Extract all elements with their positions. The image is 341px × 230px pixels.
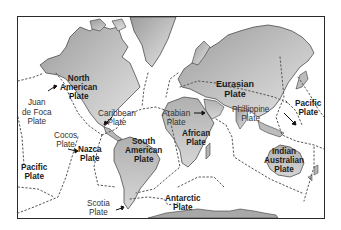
label-phillippine-plate: Phillippine Plate <box>232 105 269 123</box>
label-indian-australian-plate: Indian Australian Plate <box>264 147 304 174</box>
label-north-american-plate: North American Plate <box>60 74 97 101</box>
label-line: Pacific <box>295 99 321 108</box>
label-line: Plate <box>60 92 97 101</box>
label-line: Plate <box>22 117 52 127</box>
label-line: Plate <box>87 208 110 217</box>
label-line: Plate <box>21 172 47 181</box>
japan-landmass <box>296 71 308 89</box>
label-line: Caribbean <box>98 109 136 118</box>
label-scotia-plate: Scotia Plate <box>87 199 110 217</box>
label-line: American <box>125 146 162 155</box>
label-pacific-plate-west: Pacific Plate <box>21 163 47 181</box>
label-cocos-plate: Cocos Plate <box>54 131 77 149</box>
label-line: Antarctic <box>165 194 201 203</box>
label-line: Plate <box>182 138 210 147</box>
label-line: American <box>60 83 97 92</box>
label-african-plate: African Plate <box>182 129 210 147</box>
label-line: Plate <box>54 140 77 149</box>
greenland-landmass <box>130 17 176 67</box>
new-zealand-landmass <box>308 165 318 181</box>
world-plate-map: North American Plate Eurasian Plate Juan… <box>17 16 325 219</box>
label-pacific-plate-east: Pacific Plate <box>295 99 321 117</box>
label-south-american-plate: South American Plate <box>125 137 162 164</box>
label-arabian-plate: Arabian Plate <box>162 109 190 127</box>
label-nazca-plate: Nazca Plate <box>78 145 102 163</box>
label-line: Arabian <box>162 109 190 118</box>
label-line: Cocos <box>54 131 77 140</box>
label-line: Juan <box>22 98 52 108</box>
label-juan-de-foca-plate: Juan de Foca Plate <box>22 98 52 127</box>
label-line: North <box>60 74 97 83</box>
label-line: Eurasian <box>216 79 254 89</box>
label-line: Plate <box>295 108 321 117</box>
label-caribbean-plate: Caribbean Plate <box>98 109 136 127</box>
label-line: Plate <box>216 89 254 99</box>
label-line: Scotia <box>87 199 110 208</box>
label-line: South <box>125 137 162 146</box>
label-line: African <box>182 129 210 138</box>
label-line: Australian <box>264 156 304 165</box>
label-line: Phillippine <box>232 105 269 114</box>
label-eurasian-plate: Eurasian Plate <box>216 79 254 99</box>
label-line: Plate <box>264 165 304 174</box>
label-line: Plate <box>162 118 190 127</box>
label-line: Plate <box>165 203 201 212</box>
label-line: Plate <box>78 154 102 163</box>
label-antarctic-plate: Antarctic Plate <box>165 194 201 212</box>
label-line: Plate <box>125 155 162 164</box>
label-line: Plate <box>98 118 136 127</box>
label-line: de Foca <box>22 108 52 118</box>
label-line: Plate <box>232 114 269 123</box>
label-line: Indian <box>264 147 304 156</box>
label-line: Pacific <box>21 163 47 172</box>
label-line: Nazca <box>78 145 102 154</box>
central-america-landmass <box>104 127 122 141</box>
